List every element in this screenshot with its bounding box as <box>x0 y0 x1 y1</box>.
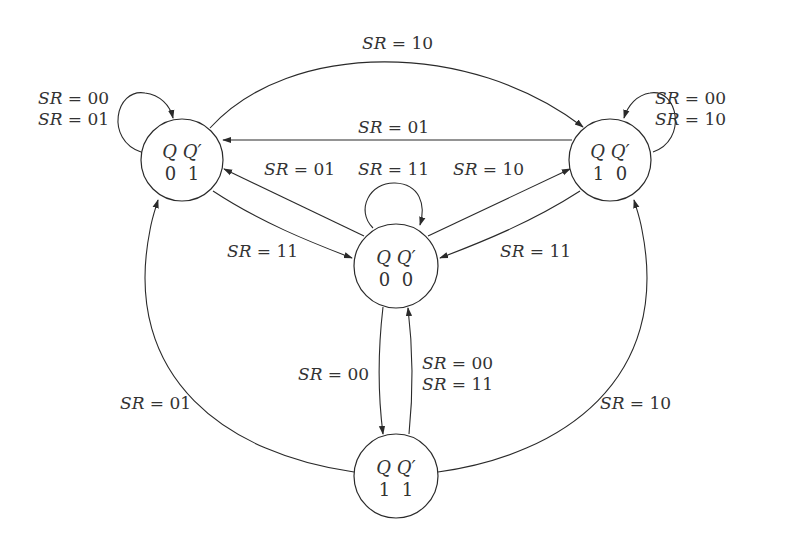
label-11-to-01: SR = 01 <box>120 393 191 413</box>
label-00-to-10: SR = 10 <box>453 159 524 179</box>
state-11-value: 1 1 <box>379 479 413 500</box>
label-10-loop-a: SR = 00 <box>655 88 726 108</box>
label-01-to-00: SR = 11 <box>227 241 298 261</box>
label-00-to-01: SR = 01 <box>264 159 335 179</box>
label-01-loop-b: SR = 01 <box>38 109 109 129</box>
state-01-value: 0 1 <box>165 163 199 184</box>
label-11-to-00-b: SR = 11 <box>422 374 493 394</box>
label-01-to-10: SR = 10 <box>362 33 433 53</box>
label-10-to-00: SR = 11 <box>500 241 571 261</box>
label-10-loop-b: SR = 10 <box>655 109 726 129</box>
state-00-header: Q Q′ <box>376 247 415 268</box>
label-00-loop: SR = 11 <box>358 159 429 179</box>
state-01-header: Q Q′ <box>162 141 201 162</box>
label-00-to-11: SR = 00 <box>298 364 369 384</box>
state-diagram: Q Q′ 0 1 Q Q′ 1 0 Q Q′ 0 0 Q Q′ 1 1 SR =… <box>0 0 791 536</box>
state-00: Q Q′ 0 0 <box>354 224 438 308</box>
label-10-to-01: SR = 01 <box>358 117 429 137</box>
state-10-value: 1 0 <box>593 163 627 184</box>
edge-00-to-10 <box>428 169 570 236</box>
state-01: Q Q′ 0 1 <box>141 119 223 201</box>
state-11-header: Q Q′ <box>376 457 415 478</box>
state-11: Q Q′ 1 1 <box>354 434 438 518</box>
label-11-to-10: SR = 10 <box>600 393 671 413</box>
state-10-header: Q Q′ <box>590 141 629 162</box>
edge-00-to-11 <box>379 307 383 434</box>
edge-00-to-01 <box>224 169 364 236</box>
edge-11-to-00 <box>408 308 412 434</box>
state-10: Q Q′ 1 0 <box>569 119 651 201</box>
edge-00-self-loop <box>365 183 422 228</box>
state-00-value: 0 0 <box>379 269 413 290</box>
label-11-to-00-a: SR = 00 <box>422 353 493 373</box>
label-01-loop-a: SR = 00 <box>38 88 109 108</box>
